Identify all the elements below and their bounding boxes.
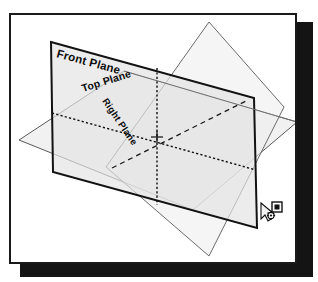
select-plane-cursor[interactable] bbox=[261, 202, 282, 221]
diagram-scene: Front Plane Top Plane Right Plane bbox=[0, 0, 318, 282]
planes-illustration: Front Plane Top Plane Right Plane bbox=[0, 0, 318, 282]
cursor-plane-badge-fill bbox=[275, 205, 280, 210]
